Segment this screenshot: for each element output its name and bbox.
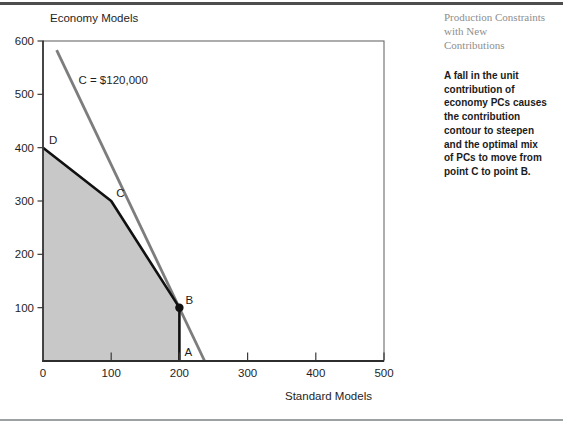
point-label-a: A — [184, 346, 192, 358]
x-tick-label: 400 — [306, 367, 325, 379]
y-tick-label: 300 — [15, 195, 34, 207]
x-tick-label: 0 — [40, 367, 46, 379]
contour-line-label: C = $120,000 — [78, 74, 147, 86]
point-label-c: C — [116, 187, 124, 199]
text-line: the contribution — [444, 110, 560, 124]
text-line: Production Constraints — [444, 10, 560, 24]
text-line: A fall in the unit — [444, 69, 560, 83]
y-tick-label: 500 — [15, 88, 34, 100]
text-line: of PCs to move from — [444, 151, 560, 165]
y-tick-label: 400 — [15, 142, 34, 154]
point-label-d: D — [49, 134, 57, 146]
caption-title: Production Constraintswith NewContributi… — [444, 10, 560, 52]
y-tick-label: 100 — [15, 302, 34, 314]
x-tick-label: 100 — [102, 367, 121, 379]
y-tick-label: 600 — [15, 35, 34, 47]
text-line: economy PCs causes — [444, 96, 560, 110]
x-axis-title: Standard Models — [285, 390, 372, 402]
x-tick-label: 500 — [374, 367, 393, 379]
caption-body: A fall in the unitcontribution ofeconomy… — [444, 69, 560, 179]
x-tick-label: 300 — [238, 367, 257, 379]
text-line: with New — [444, 24, 560, 38]
text-line: and the optimal mix — [444, 138, 560, 152]
figure-panel: Economy Models 0100200300400500100200300… — [0, 0, 563, 424]
text-line: point C to point B. — [444, 165, 560, 179]
x-tick-label: 200 — [170, 367, 189, 379]
optimal-point-dot — [175, 303, 183, 311]
y-tick-label: 200 — [15, 248, 34, 260]
text-line: contour to steepen — [444, 124, 560, 138]
point-label-b: B — [185, 294, 193, 306]
sidebar-caption: Production Constraintswith NewContributi… — [444, 10, 560, 179]
bottom-divider-rule — [0, 419, 563, 421]
text-line: Contributions — [444, 38, 560, 52]
text-line: contribution of — [444, 83, 560, 97]
